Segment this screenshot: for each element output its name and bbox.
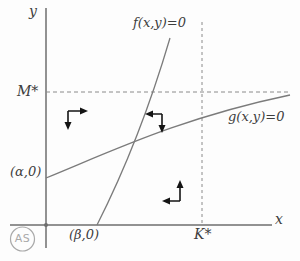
up-arrowhead-icon bbox=[177, 180, 184, 188]
f-curve bbox=[97, 38, 170, 225]
k-star-label: K* bbox=[194, 227, 211, 241]
f-curve-label: f(x,y)=0 bbox=[133, 16, 186, 29]
beta-point-label: (β,0) bbox=[69, 228, 99, 241]
m-star-label: M* bbox=[17, 84, 38, 98]
alpha-point-label: (α,0) bbox=[10, 165, 41, 178]
phase-plane-figure: y x f(x,y)=0 g(x,y)=0 M* K* (α,0) (β,0) … bbox=[0, 0, 300, 261]
origin-dot bbox=[44, 223, 48, 227]
right-arrowhead-icon bbox=[80, 108, 88, 115]
figure-drawing bbox=[0, 0, 300, 261]
left-arrowhead-icon bbox=[162, 198, 170, 205]
y-axis-label: y bbox=[29, 4, 37, 18]
watermark-text: AS bbox=[11, 233, 34, 244]
arrow-pair-middle bbox=[145, 111, 166, 134]
g-curve-label: g(x,y)=0 bbox=[228, 110, 284, 123]
x-axis-label: x bbox=[275, 212, 283, 226]
g-curve bbox=[46, 95, 290, 178]
arrow-pair-upper-left bbox=[65, 108, 89, 131]
down-arrowhead-icon bbox=[65, 122, 72, 130]
arrow-pair-lower-right bbox=[162, 180, 184, 205]
